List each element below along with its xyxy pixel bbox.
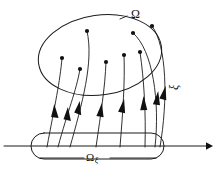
trajectory-arrowhead-7 <box>153 91 160 105</box>
trajectory-arrowhead-6 <box>140 96 147 110</box>
trajectory-curve-8 <box>152 26 165 147</box>
trajectory-start-dot-5 <box>122 53 126 57</box>
trajectory-curve-7 <box>133 33 157 147</box>
axis-arrowhead-icon <box>206 142 213 149</box>
trajectory-arrowhead-5 <box>118 99 125 113</box>
trajectory-start-dot-3 <box>85 29 89 33</box>
xi-flow-label: ξ <box>168 85 180 90</box>
trajectory-start-dot-1 <box>60 56 64 60</box>
trajectory-arrowhead-8 <box>159 86 166 100</box>
trajectory-start-dot-4 <box>104 60 108 64</box>
trajectory-start-dot-7 <box>131 31 135 35</box>
trajectory-curve-3 <box>70 31 89 147</box>
trajectory-arrowhead-2 <box>64 107 71 121</box>
omega-xi-subscript: ξ <box>95 156 98 165</box>
omega-domain-label: Ω <box>131 8 140 20</box>
trajectory-arrowhead-3 <box>74 101 81 115</box>
trajectory-start-dot-8 <box>150 24 154 28</box>
trajectory-arrowhead-1 <box>51 104 59 118</box>
trajectory-curve-4 <box>96 62 106 147</box>
trajectory-start-dot-6 <box>138 50 142 54</box>
trajectory-curves-group <box>47 24 166 147</box>
horizontal-axis-group <box>4 142 213 149</box>
omega-label-leader <box>120 16 127 19</box>
trajectory-curve-1 <box>47 58 62 147</box>
trajectory-start-dot-2 <box>78 67 82 71</box>
figure-container: Ω ξ Ωξ <box>0 0 221 176</box>
omega-xi-base: Ω <box>86 151 94 163</box>
omega-xi-region-label: Ωξ <box>86 152 98 165</box>
trajectory-arrowhead-4 <box>96 103 103 117</box>
diagram-canvas <box>0 0 221 176</box>
